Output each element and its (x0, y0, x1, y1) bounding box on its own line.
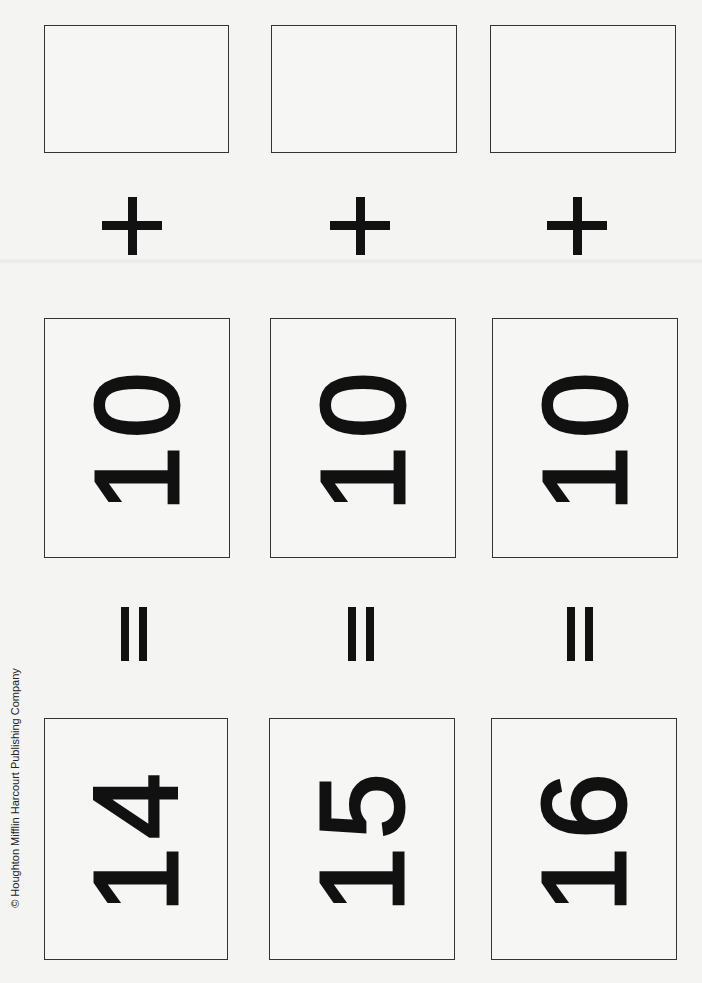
addend-box: 10 (492, 318, 678, 558)
addend-number: 10 (526, 364, 644, 511)
answer-box[interactable] (44, 25, 229, 153)
plus-sign (547, 197, 607, 257)
problem-column-1: 10 14 (42, 0, 262, 983)
plus-sign (102, 197, 162, 257)
equals-sign (348, 607, 376, 663)
equals-sign (121, 607, 149, 663)
sum-number: 15 (303, 765, 421, 912)
equals-sign (567, 607, 595, 663)
addend-number: 10 (304, 364, 422, 511)
problem-column-2: 10 15 (268, 0, 488, 983)
sum-box: 15 (269, 718, 455, 960)
sum-number: 14 (77, 765, 195, 912)
copyright-notice: © Houghton Mifflin Harcourt Publishing C… (9, 668, 21, 908)
plus-sign (330, 197, 390, 257)
sum-number: 16 (525, 765, 643, 912)
sum-box: 16 (491, 718, 677, 960)
addend-box: 10 (270, 318, 456, 558)
sum-box: 14 (44, 718, 228, 960)
problem-column-3: 10 16 (490, 0, 702, 983)
answer-box[interactable] (271, 25, 457, 153)
addend-box: 10 (44, 318, 230, 558)
answer-box[interactable] (490, 25, 676, 153)
addend-number: 10 (78, 364, 196, 511)
